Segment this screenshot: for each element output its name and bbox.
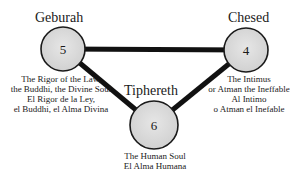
node-tiphereth-description: The Human Soul El Alma Humana — [110, 151, 200, 171]
node-geburah-description: The Rigor of the Law, the Buddhi, the Di… — [2, 74, 120, 114]
description-line: el Buddhi, el Alma Divina — [2, 104, 120, 114]
description-line: El Alma Humana — [110, 161, 200, 171]
node-chesed-description: The Intimus or Atman the Ineffable Al In… — [190, 74, 308, 114]
description-line: The Rigor of the Law, — [2, 74, 120, 84]
description-line: The Intimus — [190, 74, 308, 84]
description-line: o Atman el Inefable — [190, 104, 308, 114]
description-line: El Rigor de la Ley, — [2, 94, 120, 104]
node-chesed-number: 4 — [236, 44, 256, 57]
node-tiphereth-title: Tiphereth — [124, 84, 178, 98]
node-chesed-title: Chesed — [228, 11, 269, 25]
description-line: The Human Soul — [110, 151, 200, 161]
description-line: or Atman the Ineffable — [190, 84, 308, 94]
node-geburah-number: 5 — [53, 43, 73, 56]
description-line: the Buddhi, the Divine Soul — [2, 84, 120, 94]
description-line: Al Intimo — [190, 94, 308, 104]
node-tiphereth-number: 6 — [144, 119, 164, 132]
edge-geburah-chesed — [63, 49, 246, 50]
node-geburah-title: Geburah — [35, 11, 83, 25]
